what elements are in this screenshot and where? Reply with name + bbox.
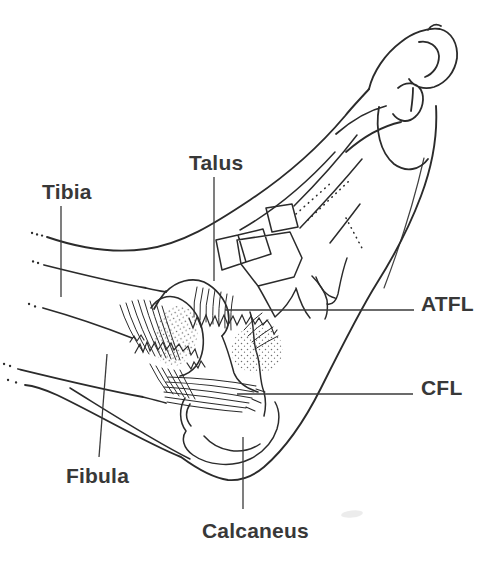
ankle-line-art-canvas: Tibia Talus ATFL CFL Fibula Calcaneus — [0, 0, 496, 562]
ankle-anatomy-figure: Tibia Talus ATFL CFL Fibula Calcaneus — [0, 0, 496, 562]
label-tibia: Tibia — [42, 180, 92, 203]
label-talus: Talus — [189, 151, 243, 174]
stipple-malleolus — [148, 301, 204, 371]
ligament-lower-fibers — [150, 364, 195, 399]
dorsum-dotted-tendons — [296, 180, 363, 250]
label-calcaneus: Calcaneus — [202, 519, 309, 542]
stipple-talus-patch — [231, 327, 283, 373]
label-cfl: CFL — [421, 376, 462, 399]
label-fibula: Fibula — [66, 464, 129, 487]
metatarsal-lines — [240, 135, 362, 243]
heel-upper-contour — [70, 388, 190, 459]
foot-line-art — [4, 25, 457, 481]
inner-arch-contour — [384, 158, 424, 288]
sketch-start-dots — [4, 233, 42, 383]
print-smudge — [341, 509, 364, 518]
fibula-bone-line — [18, 369, 166, 403]
ankle-crease-lines — [316, 258, 347, 304]
toes-outline — [336, 25, 457, 170]
midfoot-bones — [216, 204, 327, 319]
label-atfl: ATFL — [421, 292, 474, 315]
fibula-leader-line — [99, 354, 107, 457]
